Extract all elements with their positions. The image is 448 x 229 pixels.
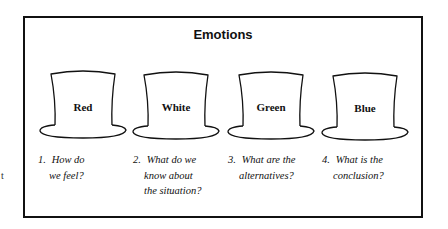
hat-label-red: Red	[53, 101, 113, 113]
hat-label-green: Green	[241, 101, 301, 113]
caption-number: 2.	[133, 152, 144, 168]
caption-number: 1.	[38, 152, 49, 168]
caption-line: we feel?	[38, 168, 85, 184]
caption-line: How do	[52, 154, 85, 165]
caption-line: conclusion?	[322, 168, 384, 184]
caption-blue: 4. What is the conclusion?	[322, 152, 384, 183]
caption-line: What are the	[242, 154, 296, 165]
caption-line: alternatives?	[228, 168, 295, 184]
caption-line: the situation?	[133, 183, 201, 199]
hat-label-white: White	[146, 101, 206, 113]
caption-line: What do we	[147, 154, 197, 165]
caption-number: 3.	[228, 152, 239, 168]
caption-number: 4.	[322, 152, 333, 168]
caption-green: 3. What are the alternatives?	[228, 152, 295, 183]
hats-illustration	[0, 0, 448, 229]
caption-line: What is the	[336, 154, 383, 165]
caption-line: know about	[133, 168, 201, 184]
hat-label-blue: Blue	[335, 102, 395, 114]
caption-red: 1. How do we feel?	[38, 152, 85, 183]
caption-white: 2. What do we know about the situation?	[133, 152, 201, 199]
